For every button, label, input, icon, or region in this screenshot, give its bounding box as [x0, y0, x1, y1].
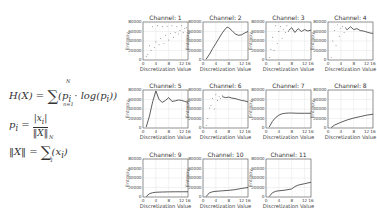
data-point — [270, 49, 271, 50]
x-axis-label: Discretization Value — [325, 66, 376, 72]
y-tick-label: 60000 — [251, 29, 265, 34]
y-axis-label: Entropy — [185, 169, 190, 187]
x-axis-label: Discretization Value — [263, 203, 314, 209]
panel-title: Channel: 10 — [207, 151, 243, 158]
y-tick-label: 60000 — [128, 166, 142, 171]
panel-title: Channel: 1 — [149, 14, 182, 21]
panel-title: Channel: 2 — [209, 14, 242, 21]
data-point — [211, 105, 212, 106]
y-tick-label: 80000 — [251, 19, 265, 24]
y-tick-label: 80000 — [188, 19, 202, 24]
y-tick-label: 80000 — [313, 87, 327, 92]
data-point — [181, 25, 182, 26]
data-point — [278, 31, 279, 32]
data-point — [339, 36, 340, 37]
y-tick-label: 40000 — [128, 106, 142, 111]
data-point — [175, 32, 176, 33]
data-point — [165, 35, 166, 36]
data-point — [184, 28, 185, 29]
y-tick-label: 80000 — [128, 87, 142, 92]
y-tick-label: 60000 — [188, 97, 202, 102]
y-tick-label: 60000 — [313, 97, 327, 102]
y-tick-label: 40000 — [188, 106, 202, 111]
y-tick-label: 60000 — [188, 166, 202, 171]
y-axis-label: Entropy — [185, 100, 190, 118]
data-point — [206, 125, 207, 126]
y-tick-label: 20000 — [313, 48, 327, 53]
channel-entropy-charts: 0200004000060000800000481216Channel: 1Di… — [0, 0, 377, 222]
y-tick-label: 80000 — [188, 156, 202, 161]
data-point — [176, 26, 177, 27]
data-point — [152, 26, 153, 27]
y-tick-label: 60000 — [188, 29, 202, 34]
data-point — [163, 43, 164, 44]
data-point — [274, 50, 275, 51]
data-point — [288, 31, 289, 32]
y-tick-label: 60000 — [128, 29, 142, 34]
y-axis-label: Entropy — [125, 100, 130, 118]
series-line — [222, 97, 248, 102]
y-axis-label: Entropy — [248, 100, 253, 118]
data-point — [146, 56, 147, 57]
y-axis-label: Entropy — [310, 100, 315, 118]
y-tick-label: 20000 — [128, 48, 142, 53]
x-axis-label: Discretization Value — [140, 203, 191, 209]
data-point — [215, 94, 216, 95]
data-point — [207, 118, 208, 119]
y-tick-label: 60000 — [128, 97, 142, 102]
data-point — [147, 54, 148, 55]
data-point — [155, 42, 156, 43]
data-point — [212, 98, 213, 99]
y-axis-label: Entropy — [125, 169, 130, 187]
x-axis-label: Discretization Value — [263, 66, 314, 72]
y-axis-label: Entropy — [248, 32, 253, 50]
data-point — [342, 26, 343, 27]
data-point — [337, 24, 338, 25]
panel-title: Channel: 3 — [272, 14, 305, 21]
y-tick-label: 20000 — [251, 48, 265, 53]
data-point — [214, 109, 215, 110]
y-tick-label: 20000 — [188, 185, 202, 190]
y-tick-label: 20000 — [128, 116, 142, 121]
data-point — [170, 33, 171, 34]
series-line — [346, 27, 373, 34]
data-point — [280, 26, 281, 27]
x-axis-label: Discretization Value — [200, 134, 251, 140]
data-point — [167, 26, 168, 27]
data-point — [186, 27, 187, 28]
panel-title: Channel: 5 — [149, 82, 182, 89]
y-tick-label: 60000 — [251, 97, 265, 102]
data-point — [157, 25, 158, 26]
y-tick-label: 20000 — [128, 185, 142, 190]
data-point — [151, 50, 152, 51]
data-point — [332, 41, 333, 42]
data-point — [340, 28, 341, 29]
x-axis-label: Discretization Value — [200, 66, 251, 72]
data-point — [344, 32, 345, 33]
y-tick-label: 60000 — [251, 166, 265, 171]
panel-title: Channel: 4 — [334, 14, 367, 21]
y-tick-label: 20000 — [188, 48, 202, 53]
x-axis-label: Discretization Value — [263, 134, 314, 140]
data-point — [217, 100, 218, 101]
data-point — [173, 37, 174, 38]
data-point — [222, 95, 223, 96]
y-tick-label: 80000 — [251, 156, 265, 161]
data-point — [178, 33, 179, 34]
data-point — [219, 96, 220, 97]
y-axis-label: Entropy — [310, 32, 315, 50]
panel-title: Channel: 7 — [272, 82, 305, 89]
data-point — [336, 45, 337, 46]
data-point — [334, 30, 335, 31]
y-tick-label: 60000 — [313, 29, 327, 34]
data-point — [331, 57, 332, 58]
y-tick-label: 40000 — [128, 175, 142, 180]
data-point — [180, 30, 181, 31]
data-point — [149, 45, 150, 46]
y-tick-label: 80000 — [128, 19, 142, 24]
data-point — [272, 37, 273, 38]
data-point — [282, 38, 283, 39]
y-tick-label: 40000 — [188, 175, 202, 180]
y-tick-label: 20000 — [251, 185, 265, 190]
data-point — [345, 27, 346, 28]
